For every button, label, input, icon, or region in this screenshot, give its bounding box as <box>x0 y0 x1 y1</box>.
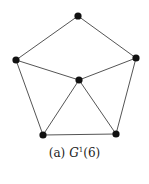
edge-top-right <box>78 16 136 58</box>
node-bottom-left <box>39 131 46 138</box>
node-right <box>132 54 139 61</box>
node-top <box>74 12 81 19</box>
caption-prefix: (a) <box>49 146 66 160</box>
edge-top-left <box>16 16 78 60</box>
edge-right-bottom-right <box>116 58 136 134</box>
node-bottom-right <box>112 130 119 137</box>
graph-edges <box>16 16 136 135</box>
graph-nodes <box>12 12 139 138</box>
edge-bottom-left-bottom-right <box>43 134 116 135</box>
edge-right-center <box>79 58 136 80</box>
edge-center-bottom-right <box>79 80 116 134</box>
node-center <box>75 76 82 83</box>
figure-caption: (a) G1(6) <box>0 146 149 160</box>
node-left <box>12 56 19 63</box>
edge-center-bottom-left <box>43 80 79 135</box>
edge-left-center <box>16 60 79 80</box>
edge-left-bottom-left <box>16 60 43 135</box>
caption-symbol: G <box>69 146 79 160</box>
caption-argument: (6) <box>83 146 100 160</box>
